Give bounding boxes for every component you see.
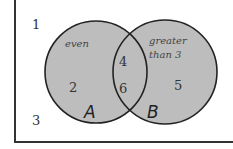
set-b-only-element: 5 bbox=[174, 78, 182, 93]
outside-element-3: 3 bbox=[32, 113, 40, 128]
venn-diagram: 1 3 even greater than 3 2 4 6 5 A B bbox=[0, 0, 233, 149]
set-b-label: B bbox=[147, 102, 159, 122]
set-a-label: A bbox=[83, 102, 96, 122]
set-a-description: even bbox=[65, 38, 89, 49]
outside-element-1: 1 bbox=[32, 17, 40, 32]
set-b-description-line1: greater bbox=[149, 35, 188, 46]
set-b-description-line2: than 3 bbox=[149, 49, 181, 60]
intersection-element-4: 4 bbox=[119, 54, 127, 69]
intersection-element-6: 6 bbox=[119, 81, 127, 96]
set-a-only-element: 2 bbox=[69, 80, 77, 95]
